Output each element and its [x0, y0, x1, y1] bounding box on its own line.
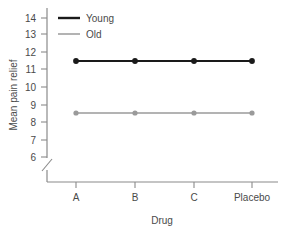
y-tick-label: 7 [30, 135, 36, 146]
data-point-marker [132, 110, 137, 115]
data-point-marker [191, 58, 197, 64]
y-tick-label: 13 [25, 29, 37, 40]
y-tick-label: 10 [25, 82, 37, 93]
y-tick-label: 6 [30, 152, 36, 163]
x-tick-label: C [190, 192, 197, 203]
y-tick-label: 8 [30, 117, 36, 128]
data-point-marker [132, 58, 138, 64]
data-point-marker [249, 110, 254, 115]
legend-label-young: Young [86, 13, 114, 24]
x-tick-label: B [132, 192, 139, 203]
line-chart: 14 13 12 11 10 9 8 7 6 A B C Placebo [0, 0, 283, 237]
y-tick-label: 14 [25, 13, 37, 24]
y-tick-label: 11 [26, 64, 37, 75]
series-old [73, 110, 254, 115]
x-axis-title: Drug [151, 215, 173, 226]
legend-label-old: Old [86, 29, 102, 40]
x-tick-marks [76, 182, 252, 188]
x-tick-label: Placebo [234, 192, 271, 203]
axis-break-icon [42, 159, 52, 171]
data-point-marker [249, 58, 255, 64]
series-young [73, 58, 255, 64]
y-axis-title: Mean pain relief [8, 59, 19, 130]
data-point-marker [191, 110, 196, 115]
data-point-marker [73, 58, 79, 64]
y-tick-label: 9 [30, 100, 36, 111]
x-tick-label: A [73, 192, 80, 203]
chart-container: 14 13 12 11 10 9 8 7 6 A B C Placebo [0, 0, 283, 237]
data-point-marker [73, 110, 78, 115]
y-tick-marks [41, 18, 47, 157]
y-tick-label: 12 [25, 47, 37, 58]
chart-legend: Young Old [58, 13, 114, 40]
